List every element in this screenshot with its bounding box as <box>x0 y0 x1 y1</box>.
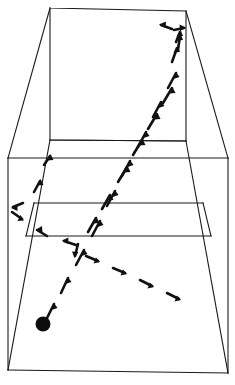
traj-arrowhead <box>159 22 166 29</box>
court-trajectory-diagram <box>0 0 235 385</box>
right-wall-top-edge <box>186 11 228 158</box>
ball-marker[interactable] <box>36 317 51 332</box>
top-corner-deflection <box>159 22 186 32</box>
back-wall-base-line <box>50 140 186 141</box>
left-wall-top-edge <box>8 8 50 158</box>
court-diagram-canvas <box>0 0 235 385</box>
traj-dash <box>133 140 142 155</box>
traj-arrowhead <box>180 25 187 32</box>
traj-dash <box>168 73 176 88</box>
traj-dash <box>163 88 172 103</box>
